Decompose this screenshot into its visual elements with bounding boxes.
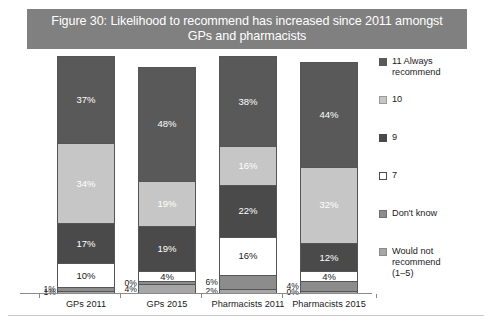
source-note (8, 318, 484, 325)
bar-stack[interactable]: 48%19%19%4%0%4% (138, 56, 196, 294)
bar-segment[interactable]: 19% (138, 181, 196, 226)
bar-group: 44%32%12%4%4%0% (300, 56, 358, 294)
bar-segment-label: 37% (76, 95, 95, 105)
legend-label: 11 Always recommend (392, 56, 441, 78)
x-axis-tick (120, 294, 121, 298)
bar-segment-label: 44% (319, 110, 338, 120)
legend-label: Don't know (392, 208, 437, 219)
x-axis-tick (376, 294, 377, 298)
figure-title-line-1: Figure 30: Likelihood to recommend has i… (51, 14, 442, 29)
x-axis-category-label: Pharmacists 2011 (201, 299, 295, 309)
bar-segment[interactable]: 12% (300, 243, 358, 272)
bar-segment-label: 10% (76, 271, 95, 281)
bar-stack[interactable]: 44%32%12%4%4%0% (300, 56, 358, 294)
x-axis-tick (39, 294, 40, 298)
x-axis-category-label: Pharmacists 2015 (282, 299, 376, 309)
bar-segment[interactable]: 32% (300, 167, 358, 243)
legend-swatch-icon (379, 134, 387, 142)
legend-label: 7 (392, 170, 397, 181)
bar-segment-label: 34% (76, 179, 95, 189)
chart-plot-area: 37%34%17%10%1%1%48%19%19%4%0%4%38%16%22%… (20, 56, 372, 294)
bar-group: 48%19%19%4%0%4% (138, 56, 196, 294)
bar-segment-label: 19% (157, 199, 176, 209)
bar-segment[interactable]: 37% (57, 56, 115, 143)
bar-segment[interactable]: 38% (219, 56, 277, 146)
bar-segment[interactable]: 34% (57, 143, 115, 223)
bar-segment[interactable]: 6% (219, 275, 277, 289)
legend-item[interactable]: 11 Always recommend (379, 56, 489, 94)
bar-segment-label: 48% (157, 119, 176, 129)
legend-swatch-icon (379, 248, 387, 256)
legend-item[interactable]: Don't know (379, 208, 489, 246)
bar-segment-label: 16% (238, 161, 257, 171)
bar-segment[interactable]: 4% (138, 271, 196, 281)
bar-segment[interactable]: 48% (138, 67, 196, 181)
bar-segment[interactable]: 4% (300, 271, 358, 281)
legend-swatch-icon (379, 172, 387, 180)
legend-label: 9 (392, 132, 397, 143)
x-axis-tick (282, 294, 283, 298)
footer-divider (8, 315, 484, 316)
legend-item[interactable]: Would not recommend (1–5) (379, 246, 489, 284)
legend-item[interactable]: 10 (379, 94, 489, 132)
bar-segment-label: 17% (76, 239, 95, 249)
bar-segment-outside-label: 2% (206, 287, 218, 296)
legend-item[interactable]: 9 (379, 132, 489, 170)
bar-segment-label: 38% (238, 97, 257, 107)
bar-segment[interactable]: 16% (219, 146, 277, 184)
bar-segment[interactable]: 22% (219, 185, 277, 237)
legend-label: Would not recommend (1–5) (392, 246, 441, 279)
figure-title-bar: Figure 30: Likelihood to recommend has i… (27, 9, 467, 49)
x-axis-category-label: GPs 2015 (120, 299, 214, 309)
bar-segment-label: 19% (157, 244, 176, 254)
legend-swatch-icon (379, 96, 387, 104)
bar-segment[interactable]: 16% (219, 237, 277, 275)
x-axis-line (20, 293, 372, 294)
bar-stack[interactable]: 37%34%17%10%1%1% (57, 56, 115, 294)
bar-segment-label: 16% (238, 251, 257, 261)
bar-segment[interactable]: 17% (57, 223, 115, 263)
bar-group: 37%34%17%10%1%1% (57, 56, 115, 294)
bar-segment[interactable]: 10% (57, 263, 115, 287)
legend-swatch-icon (379, 210, 387, 218)
legend-item[interactable]: 7 (379, 170, 489, 208)
figure-title-line-2: GPs and pharmacists (188, 29, 307, 44)
bar-segment-label: 32% (319, 200, 338, 210)
x-axis-category-label: GPs 2011 (39, 299, 133, 309)
bar-group: 38%16%22%16%6%2% (219, 56, 277, 294)
bar-segment-label: 22% (238, 206, 257, 216)
legend-swatch-icon (379, 58, 387, 66)
bar-segment[interactable]: 4% (300, 281, 358, 291)
chart-legend: 11 Always recommend1097Don't knowWould n… (379, 56, 489, 284)
bar-stack[interactable]: 38%16%22%16%6%2% (219, 56, 277, 294)
bar-segment[interactable]: 19% (138, 226, 196, 271)
bar-segment[interactable]: 44% (300, 62, 358, 167)
legend-label: 10 (392, 94, 402, 105)
x-axis-tick (201, 294, 202, 298)
bar-segment-label: 12% (319, 253, 338, 263)
